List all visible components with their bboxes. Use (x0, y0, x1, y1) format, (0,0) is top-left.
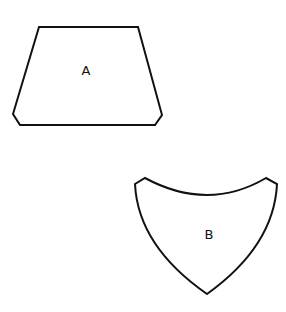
shape-b-group: B (135, 178, 277, 294)
shape-b-label: B (205, 227, 214, 242)
shape-a-label: A (82, 63, 91, 78)
shape-a-group: A (13, 27, 162, 125)
diagram-canvas: A B (0, 0, 286, 312)
